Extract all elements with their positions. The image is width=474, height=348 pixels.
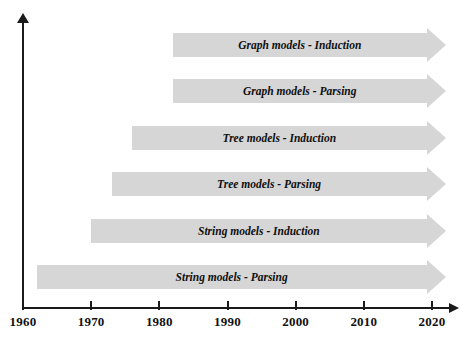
x-axis-tick xyxy=(363,301,365,310)
x-axis-tick-label: 1990 xyxy=(198,314,258,330)
x-axis-line xyxy=(22,307,452,309)
x-axis-arrowhead-icon xyxy=(449,303,459,313)
timeline-bar-label: Tree models - Induction xyxy=(132,126,427,150)
x-axis-tick xyxy=(22,301,24,310)
timeline-bar-arrowhead-icon xyxy=(427,121,446,155)
timeline-bar-label: String models - Induction xyxy=(91,219,426,243)
x-axis-tick xyxy=(227,301,229,310)
x-axis-tick-label: 2000 xyxy=(266,314,326,330)
y-axis-line xyxy=(22,22,24,309)
timeline-bar: String models - Parsing xyxy=(37,265,446,289)
timeline-chart: 1960197019801990200020102020 Graph model… xyxy=(0,0,474,348)
timeline-bar-arrowhead-icon xyxy=(427,214,446,248)
timeline-bar-label: Graph models - Induction xyxy=(173,33,427,57)
timeline-bar-label: String models - Parsing xyxy=(37,265,427,289)
x-axis-tick xyxy=(90,301,92,310)
x-axis-tick xyxy=(158,301,160,310)
timeline-bar-arrowhead-icon xyxy=(427,260,446,294)
timeline-bar: Tree models - Parsing xyxy=(112,172,446,196)
x-axis-tick xyxy=(295,301,297,310)
x-axis-tick-label: 1970 xyxy=(61,314,121,330)
timeline-bar-arrowhead-icon xyxy=(427,74,446,108)
timeline-bar-arrowhead-icon xyxy=(427,28,446,62)
x-axis-tick-label: 1960 xyxy=(0,314,53,330)
x-axis-tick xyxy=(431,301,433,310)
x-axis-tick-label: 2020 xyxy=(402,314,462,330)
timeline-bar: Graph models - Parsing xyxy=(173,79,446,103)
timeline-bar-label: Tree models - Parsing xyxy=(112,172,427,196)
timeline-bar: Tree models - Induction xyxy=(132,126,446,150)
timeline-bar-arrowhead-icon xyxy=(427,167,446,201)
x-axis-tick-label: 2010 xyxy=(334,314,394,330)
timeline-bar: Graph models - Induction xyxy=(173,33,446,57)
y-axis-arrowhead-icon xyxy=(17,13,29,23)
timeline-bar-label: Graph models - Parsing xyxy=(173,79,427,103)
timeline-bar: String models - Induction xyxy=(91,219,445,243)
x-axis-tick-label: 1980 xyxy=(129,314,189,330)
